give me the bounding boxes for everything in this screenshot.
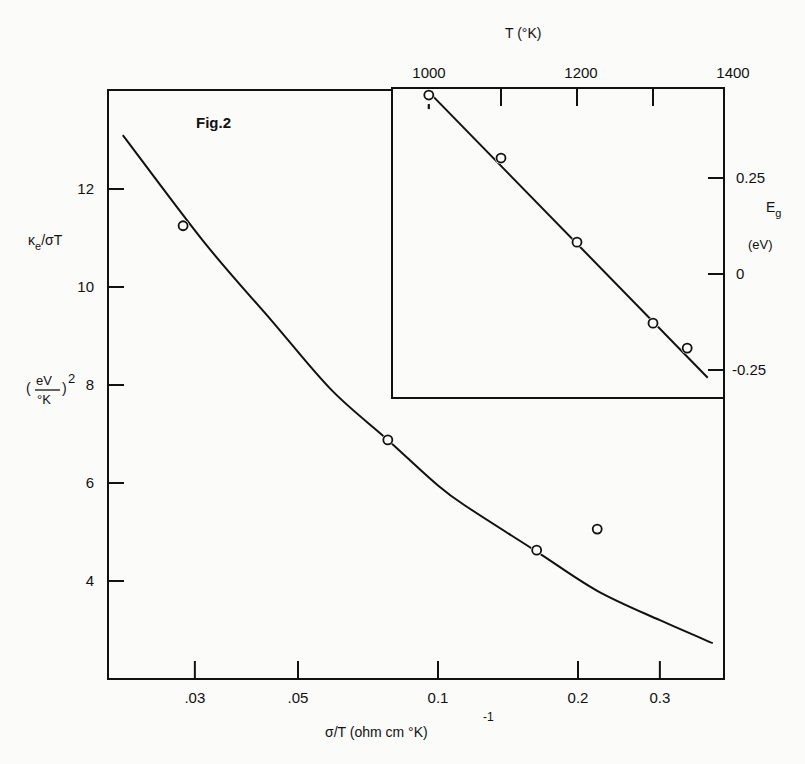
- eg-subscript: g: [775, 207, 781, 219]
- chart-canvas: .03.050.10.20.34681012 1000120014000.250…: [0, 0, 805, 764]
- inset-y-tick-label: -0.25: [732, 361, 766, 378]
- inset-x-tick-label: 1200: [564, 64, 597, 81]
- main-x-axis-title: σ/T (ohm cm °K): [325, 724, 428, 740]
- inset-frame-rect: [392, 88, 724, 398]
- eg-symbol: E: [766, 199, 775, 215]
- y-tick-label: 6: [86, 474, 94, 491]
- main-x-axis-exponent: -1: [483, 710, 494, 724]
- inset-x-tick-label: 1400: [716, 64, 749, 81]
- x-tick-label: 0.3: [649, 689, 670, 706]
- y-tick-label: 10: [77, 278, 94, 295]
- y-tick-label: 8: [86, 376, 94, 393]
- units-denominator: °K: [37, 392, 51, 407]
- inset-y-axis-title: Eg: [766, 199, 781, 219]
- units-exponent: 2: [68, 371, 75, 386]
- x-tick-label: 0.2: [568, 689, 589, 706]
- units-numerator: eV: [36, 373, 52, 388]
- inset-plot-frame: [392, 88, 724, 398]
- main-x-axis-title-text: σ/T (ohm cm °K): [325, 724, 428, 740]
- x-tick-label: .03: [184, 689, 205, 706]
- y-tick-label: 12: [77, 180, 94, 197]
- x-tick-label: .05: [288, 689, 309, 706]
- inset-y-tick-label: 0.25: [736, 169, 765, 186]
- y-title-rest: /σT: [41, 232, 63, 248]
- main-y-axis-units: ( eV °K ) 2: [26, 371, 75, 407]
- svg-text:): ): [62, 380, 67, 396]
- inset-y-axis-units: (eV): [748, 237, 773, 252]
- svg-text:(: (: [26, 380, 31, 396]
- figure-title: Fig.2: [196, 114, 231, 131]
- y-tick-label: 4: [86, 572, 94, 589]
- main-y-axis-title: κe/σT: [28, 232, 63, 252]
- inset-x-tick-label: 1000: [412, 64, 445, 81]
- x-tick-label: 0.1: [428, 689, 449, 706]
- inset-y-tick-label: 0: [736, 265, 744, 282]
- inset-x-axis-title: T (°K): [505, 25, 541, 41]
